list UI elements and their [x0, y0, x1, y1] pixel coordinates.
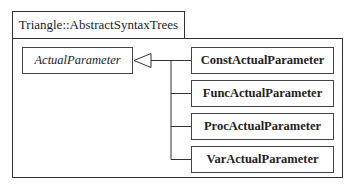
class-proc-actual-parameter[interactable]: ProcActualParameter — [191, 113, 334, 140]
class-name: ConstActualParameter — [201, 53, 325, 67]
package-name: Triangle::AbstractSyntaxTrees — [19, 17, 178, 32]
class-name: ActualParameter — [34, 53, 120, 67]
class-name: VarActualParameter — [207, 152, 319, 166]
class-const-actual-parameter[interactable]: ConstActualParameter — [191, 47, 334, 74]
class-var-actual-parameter[interactable]: VarActualParameter — [191, 146, 334, 173]
class-name: ProcActualParameter — [204, 119, 321, 133]
class-actual-parameter[interactable]: ActualParameter — [22, 47, 133, 74]
package-tab: Triangle::AbstractSyntaxTrees — [12, 11, 185, 38]
class-name: FuncActualParameter — [203, 86, 322, 100]
class-func-actual-parameter[interactable]: FuncActualParameter — [191, 80, 334, 107]
